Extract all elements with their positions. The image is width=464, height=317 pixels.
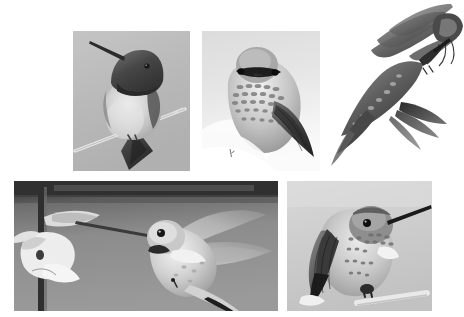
photo-plate xyxy=(0,0,464,317)
panel-c-artwork xyxy=(327,2,464,174)
photo-panel-fluffed-hummingbird-head-on xyxy=(202,31,320,171)
photo-panel-hummingbird-feeding-at-tubular-flower xyxy=(327,2,464,174)
panel-a-artwork xyxy=(73,31,190,171)
photo-panel-perched-male-hummingbird xyxy=(73,31,190,171)
panel-e-artwork xyxy=(287,181,432,311)
panel-b-artwork xyxy=(202,31,320,171)
panel-d-artwork xyxy=(14,181,278,311)
photo-panel-hovering-hummingbird-at-flower xyxy=(14,181,278,311)
photo-panel-perched-hummingbird-profile xyxy=(287,181,432,311)
